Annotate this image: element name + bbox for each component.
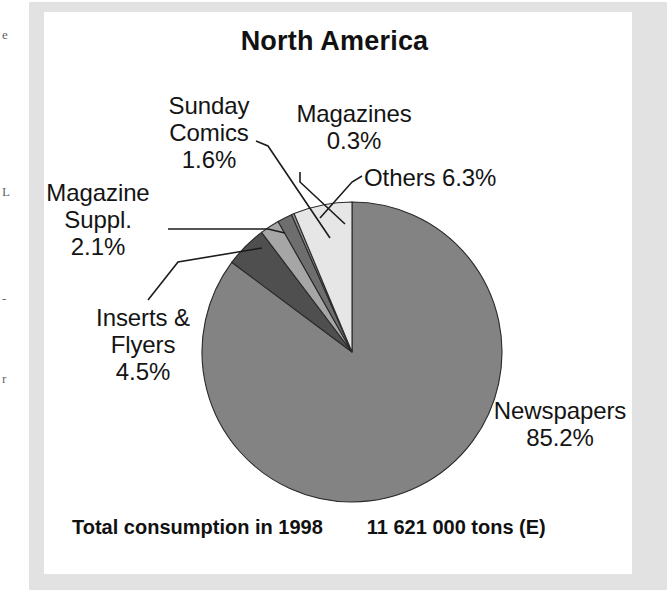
slice-label-newspapers: Newspapers 85.2% <box>470 398 650 452</box>
scanned-chart-page: e L - r North America Sunday Comics 1.6%… <box>0 0 669 594</box>
slice-label-inserts-flyers: Inserts & Flyers 4.5% <box>78 305 208 386</box>
footer-total-value: 11 621 000 tons (E) <box>367 516 546 539</box>
slice-label-magazine-suppl: Magazine Suppl. 2.1% <box>30 180 166 261</box>
chart-panel <box>44 12 632 574</box>
slice-label-others: Others 6.3% <box>364 165 594 192</box>
chart-footer: Total consumption in 1998 11 621 000 ton… <box>72 516 612 539</box>
footer-caption: Total consumption in 1998 <box>72 516 323 539</box>
edge-text-fragment: - <box>2 292 6 305</box>
slice-label-magazines: Magazines 0.3% <box>274 101 434 155</box>
slice-label-sunday-comics: Sunday Comics 1.6% <box>148 93 270 174</box>
chart-title: North America <box>0 26 669 57</box>
edge-text-fragment: L <box>2 185 10 198</box>
edge-text-fragment: r <box>2 372 6 385</box>
